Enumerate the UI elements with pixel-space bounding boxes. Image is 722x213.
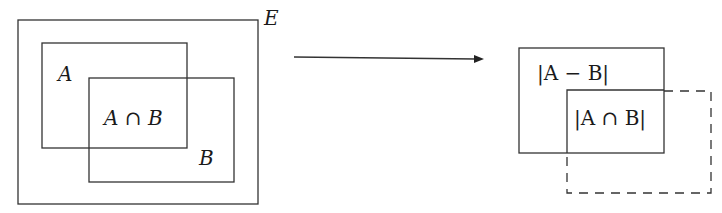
set-b-label: B (198, 146, 214, 170)
venn-diagram-canvas: E A B A ∩ B |A − B| |A ∩ B| (0, 0, 722, 213)
difference-label: |A − B| (537, 61, 609, 86)
set-a-rect (42, 43, 187, 148)
arrow-head-icon (474, 55, 484, 63)
arrow-shaft (294, 57, 476, 59)
intersection-cardinality-label: |A ∩ B| (574, 106, 646, 131)
universe-label: E (263, 6, 279, 30)
intersection-label: A ∩ B (102, 106, 163, 130)
right-panel: |A − B| |A ∩ B| (519, 48, 711, 193)
left-panel: E A B A ∩ B (18, 6, 279, 204)
set-a-label: A (56, 62, 72, 86)
transform-arrow (294, 55, 484, 63)
